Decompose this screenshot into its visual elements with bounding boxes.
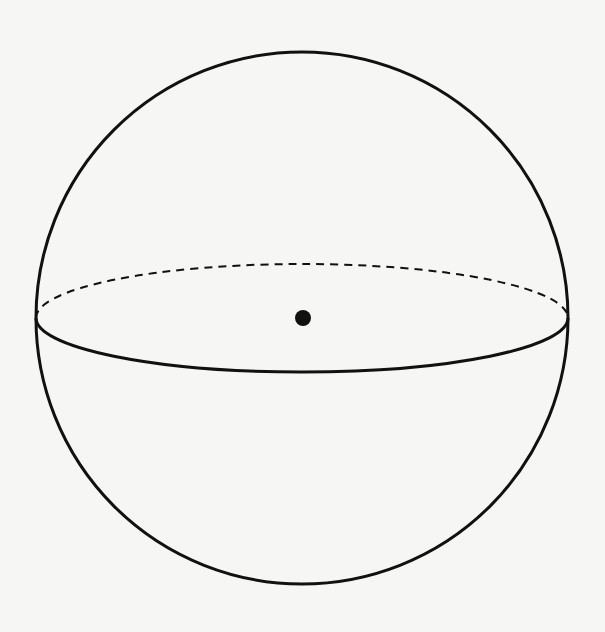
sphere-svg — [0, 0, 605, 632]
equator-front-solid-arc — [36, 318, 568, 372]
center-point — [295, 310, 311, 326]
sphere-diagram — [0, 0, 605, 632]
equator-back-dashed-arc — [36, 264, 568, 318]
